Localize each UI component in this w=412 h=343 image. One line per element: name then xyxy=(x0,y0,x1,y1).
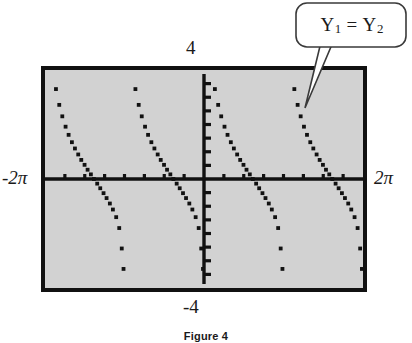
data-point xyxy=(349,208,353,212)
data-point xyxy=(267,202,271,206)
data-point xyxy=(302,125,306,129)
data-point xyxy=(184,196,188,200)
data-point xyxy=(165,168,169,172)
data-point xyxy=(337,186,341,190)
data-point xyxy=(122,267,126,271)
callout-annotation: Y1 = Y2 xyxy=(296,3,408,49)
data-point xyxy=(70,140,74,144)
y-axis-min-label: -4 xyxy=(183,297,199,316)
data-point xyxy=(153,147,157,151)
callout-pointer-icon xyxy=(305,42,333,108)
figure-caption: Figure 4 xyxy=(0,330,412,342)
data-point xyxy=(178,186,182,190)
data-point xyxy=(89,172,93,176)
data-point xyxy=(98,186,102,190)
data-point xyxy=(76,153,80,157)
data-point xyxy=(235,153,239,157)
data-point xyxy=(242,163,246,167)
data-point xyxy=(171,177,175,181)
data-point xyxy=(105,196,109,200)
x-axis-min-label: -2π xyxy=(2,168,27,187)
data-point xyxy=(308,140,312,144)
data-point xyxy=(111,208,115,212)
data-point xyxy=(223,125,227,129)
data-point xyxy=(134,87,138,91)
data-point xyxy=(276,226,280,230)
data-point xyxy=(143,125,147,129)
callout-y2-subscript: 2 xyxy=(377,21,384,37)
data-point xyxy=(79,158,83,162)
data-point xyxy=(273,215,277,219)
data-point xyxy=(281,267,285,271)
data-point xyxy=(358,247,362,251)
data-point xyxy=(83,163,87,167)
data-point xyxy=(248,172,252,176)
data-point xyxy=(270,208,274,212)
data-point xyxy=(117,226,121,230)
data-point xyxy=(54,87,58,91)
data-point xyxy=(216,103,220,107)
data-point xyxy=(67,133,71,137)
data-point xyxy=(146,133,150,137)
data-point xyxy=(57,103,61,107)
data-point xyxy=(343,196,347,200)
data-point xyxy=(120,247,124,251)
data-point xyxy=(360,267,363,271)
data-point xyxy=(261,191,265,195)
data-point xyxy=(60,114,64,118)
data-point xyxy=(219,114,223,118)
data-point xyxy=(232,147,236,151)
data-point xyxy=(181,191,185,195)
callout-y1-subscript: 1 xyxy=(335,21,342,37)
data-point xyxy=(264,196,268,200)
data-point xyxy=(315,153,319,157)
data-point xyxy=(324,168,328,172)
data-point xyxy=(353,215,357,219)
callout-label: Y1 = Y2 xyxy=(296,3,408,47)
data-point xyxy=(279,247,283,251)
data-point xyxy=(245,168,249,172)
data-point xyxy=(194,215,198,219)
data-point xyxy=(334,182,338,186)
data-point xyxy=(114,215,118,219)
data-point xyxy=(168,172,172,176)
data-point xyxy=(140,114,144,118)
callout-equals: = xyxy=(346,14,357,36)
data-point xyxy=(156,153,160,157)
data-point xyxy=(149,140,153,144)
data-point xyxy=(318,158,322,162)
data-point xyxy=(108,202,112,206)
data-point xyxy=(229,140,233,144)
data-point xyxy=(199,247,203,251)
x-axis-max-label: 2π xyxy=(374,168,393,187)
data-point xyxy=(257,186,261,190)
data-point xyxy=(175,182,179,186)
data-point xyxy=(190,208,194,212)
data-point xyxy=(95,182,99,186)
data-point xyxy=(254,182,258,186)
y-axis-max-label: 4 xyxy=(186,38,196,57)
data-point xyxy=(238,158,242,162)
callout-y2: Y xyxy=(363,14,377,36)
data-point xyxy=(73,147,77,151)
callout-y1: Y xyxy=(320,14,334,36)
data-point xyxy=(340,191,344,195)
data-point xyxy=(213,87,217,91)
data-point xyxy=(346,202,350,206)
figure-root: 4 -2π 2π -4 Y1 = Y2 Figure 4 xyxy=(0,0,412,343)
data-point xyxy=(226,133,230,137)
data-point xyxy=(92,177,96,181)
data-point xyxy=(311,147,315,151)
data-point xyxy=(187,202,191,206)
data-point xyxy=(305,133,309,137)
data-point xyxy=(102,191,106,195)
data-point xyxy=(197,226,201,230)
data-point xyxy=(137,103,141,107)
data-point xyxy=(330,177,334,181)
data-point xyxy=(356,226,360,230)
data-point xyxy=(64,125,68,129)
data-point xyxy=(321,163,325,167)
data-point xyxy=(201,267,205,271)
data-point xyxy=(162,163,166,167)
data-point xyxy=(327,172,331,176)
